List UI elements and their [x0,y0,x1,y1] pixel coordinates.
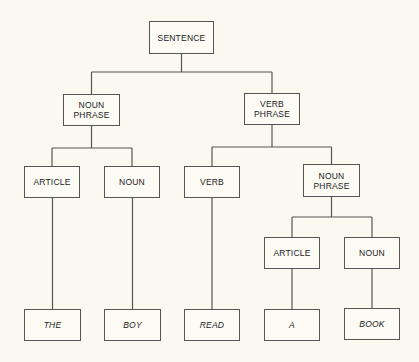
tree-node-np1: NOUN PHRASE [63,94,120,126]
tree-node-art1: ARTICLE [24,166,80,198]
tree-node-noun2: NOUN [344,237,400,269]
tree-node-noun1: NOUN [104,166,160,198]
tree-node-verb: VERB [184,166,240,198]
parse-tree-diagram: SENTENCENOUN PHRASEVERB PHRASEARTICLENOU… [0,0,419,362]
tree-node-the: THE [24,309,81,341]
tree-node-art2: ARTICLE [264,237,320,269]
tree-node-sentence: SENTENCE [149,21,214,54]
tree-node-np2: NOUN PHRASE [303,164,360,197]
tree-node-read: READ [184,309,240,341]
tree-node-vp: VERB PHRASE [244,93,300,125]
tree-node-boy: BOY [104,309,161,341]
tree-node-a: A [264,309,320,341]
tree-node-book: BOOK [344,308,400,340]
